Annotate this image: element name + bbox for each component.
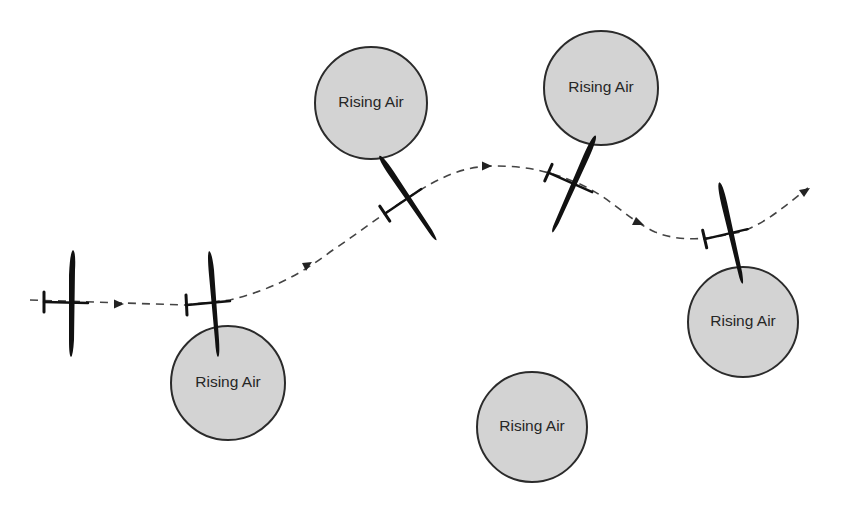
thermal-label: Rising Air <box>568 78 633 95</box>
arrow-icon <box>799 188 810 197</box>
glider-tail <box>380 206 390 221</box>
glider-fuselage <box>44 302 88 303</box>
thermal-5: Rising Air <box>688 267 798 377</box>
glider-tail <box>703 230 707 248</box>
thermal-2: Rising Air <box>315 47 427 159</box>
thermal-1: Rising Air <box>171 326 285 440</box>
thermal-label: Rising Air <box>195 373 260 390</box>
arrow-icon <box>482 162 492 171</box>
arrow-icon <box>632 217 644 225</box>
glider-wing <box>69 250 75 357</box>
glider-tail <box>186 295 187 315</box>
glider-wing <box>377 154 439 242</box>
soaring-diagram: Rising Air Rising Air Rising Air Rising … <box>0 0 841 508</box>
arrow-icon <box>114 300 124 309</box>
glider-3 <box>356 147 450 256</box>
thermal-3: Rising Air <box>544 31 658 145</box>
thermal-4: Rising Air <box>477 372 587 482</box>
glider-fuselage <box>187 301 230 305</box>
thermal-label: Rising Air <box>499 417 564 434</box>
glider-fuselage <box>705 229 748 239</box>
thermal-label: Rising Air <box>710 312 775 329</box>
glider-wing <box>550 134 599 233</box>
thermal-label: Rising Air <box>338 93 403 110</box>
glider-1 <box>44 250 88 357</box>
flight-path <box>30 166 808 305</box>
